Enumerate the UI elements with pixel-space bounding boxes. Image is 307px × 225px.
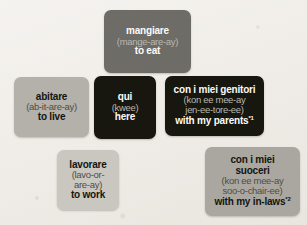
card-translation: with my parents*1 bbox=[175, 115, 253, 127]
card-word: mangiare bbox=[126, 26, 169, 36]
vocab-card-genitori[interactable]: con i miei genitori (kon ee mee-ay jen-e… bbox=[165, 76, 264, 136]
card-pronunciation-2: soo-o-chair-ee) bbox=[223, 186, 283, 196]
vocabulary-card-grid: mangiare (mange-are-ay) to eat abitare (… bbox=[0, 0, 307, 225]
vocab-card-lavorare[interactable]: lavorare (lavo-or- are-ay) to work bbox=[57, 150, 119, 210]
vocab-card-abitare[interactable]: abitare (ab-it-are-ay) to live bbox=[14, 77, 89, 137]
card-translation: to live bbox=[38, 112, 66, 122]
vocab-card-mangiare[interactable]: mangiare (mange-are-ay) to eat bbox=[104, 10, 191, 73]
card-translation: to work bbox=[71, 190, 105, 200]
card-word: qui bbox=[118, 92, 132, 102]
vocab-card-qui[interactable]: qui (kwee) here bbox=[94, 76, 156, 139]
card-translation-text: with my parents bbox=[175, 116, 248, 127]
card-pronunciation-2: jen-ee-tore-ee) bbox=[185, 105, 243, 115]
card-translation: here bbox=[115, 112, 135, 122]
card-translation: to eat bbox=[135, 46, 160, 56]
card-footnote-marker: *1 bbox=[248, 115, 253, 121]
card-translation-text: with my in-laws bbox=[214, 196, 285, 207]
card-translation: with my in-laws*2 bbox=[214, 196, 290, 208]
card-footnote-marker: *2 bbox=[285, 196, 290, 202]
vocab-card-suoceri[interactable]: con i miei suoceri (kon ee mee-ay soo-o-… bbox=[205, 147, 300, 216]
